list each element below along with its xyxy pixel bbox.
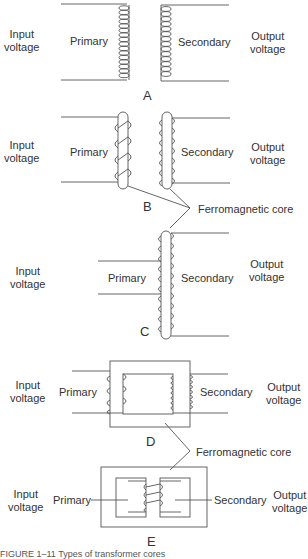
input-voltage-text: Input voltage — [8, 488, 43, 513]
output-voltage-text: Output voltage — [250, 141, 285, 166]
output-voltage-label-e: Output voltage — [272, 489, 307, 515]
ferromagnetic-core-callout-top: Ferromagnetic core — [198, 203, 293, 216]
core-d-outer — [110, 361, 190, 427]
core-e-outer — [101, 467, 207, 527]
output-voltage-label-d: Output voltage — [266, 381, 301, 407]
primary-label-a: Primary — [70, 35, 108, 48]
secondary-label-a: Secondary — [178, 36, 231, 49]
panel-label-a: A — [143, 88, 152, 103]
secondary-label-c: Secondary — [181, 272, 234, 285]
figure-caption: FIGURE 1–11 Types of transformer cores — [0, 549, 165, 559]
input-voltage-label-d: Input voltage — [10, 379, 45, 405]
panel-label-e: E — [147, 534, 156, 549]
output-voltage-label-b: Output voltage — [250, 141, 285, 167]
core-e-window-left — [116, 478, 146, 517]
input-voltage-label-b: Input voltage — [4, 139, 39, 165]
core-c — [161, 231, 171, 339]
primary-label-b: Primary — [70, 146, 108, 159]
core-d-window — [123, 374, 173, 414]
input-voltage-text: Input voltage — [10, 379, 45, 404]
primary-label-e: Primary — [53, 494, 91, 507]
secondary-label-b: Secondary — [181, 146, 234, 159]
primary-label-c: Primary — [108, 272, 146, 285]
input-voltage-text: Input voltage — [4, 28, 39, 53]
output-voltage-text: Output voltage — [272, 489, 307, 514]
input-voltage-label-c: Input voltage — [10, 265, 45, 291]
input-voltage-text: Input voltage — [10, 265, 45, 290]
output-voltage-text: Output voltage — [266, 381, 301, 406]
input-voltage-label-e: Input voltage — [8, 488, 43, 514]
ferromagnetic-core-callout-bottom: Ferromagnetic core — [196, 446, 291, 459]
panel-label-b: B — [143, 199, 152, 214]
panel-c-drawing — [98, 231, 229, 339]
secondary-label-e: Secondary — [214, 494, 267, 507]
panel-label-c: C — [140, 324, 149, 339]
core-b-secondary — [162, 112, 172, 189]
core-e-window-right — [160, 478, 190, 517]
core-b-primary — [118, 112, 128, 189]
primary-label-d: Primary — [59, 386, 97, 399]
output-voltage-text: Output voltage — [249, 258, 284, 283]
output-voltage-label-a: Output voltage — [250, 30, 285, 56]
secondary-coil-a — [161, 7, 171, 77]
panel-label-d: D — [146, 434, 155, 449]
output-voltage-text: Output voltage — [250, 30, 285, 55]
secondary-label-d: Secondary — [200, 386, 253, 399]
input-voltage-label-a: Input voltage — [4, 28, 39, 54]
primary-coil-a — [119, 5, 129, 80]
output-voltage-label-c: Output voltage — [249, 258, 284, 284]
input-voltage-text: Input voltage — [4, 139, 39, 164]
panel-e-drawing — [91, 467, 212, 527]
